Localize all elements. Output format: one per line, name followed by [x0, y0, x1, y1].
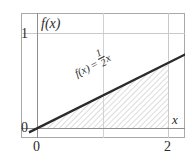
x-tick-label-0: 0	[33, 140, 40, 154]
x-axis-label: x	[172, 113, 178, 126]
x-tick-label-2: 2	[164, 140, 171, 154]
y-tick-label-0: 0	[21, 121, 28, 135]
plot-canvas	[0, 0, 191, 163]
y-tick-label-1: 1	[21, 27, 28, 41]
function-plot-figure: f(x) x 1 0 0 2 f(x)=12x	[0, 0, 191, 163]
y-axis-label: f(x)	[41, 17, 60, 31]
